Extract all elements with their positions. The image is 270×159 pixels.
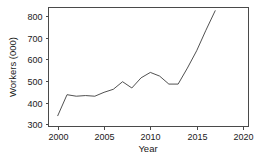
y-tick-label: 400 [27, 99, 42, 109]
line-chart-figure: 300400500600700800 20002005201020152020 … [0, 0, 270, 159]
y-tick-label: 500 [27, 77, 42, 87]
y-tick-label: 700 [27, 34, 42, 44]
y-tick-label: 600 [27, 55, 42, 65]
x-tick-label: 2005 [94, 132, 114, 142]
x-axis-title: Year [138, 143, 157, 154]
x-tick-label: 2020 [233, 132, 253, 142]
chart-canvas: 300400500600700800 20002005201020152020 … [0, 0, 270, 159]
x-tick-label: 2015 [187, 132, 207, 142]
y-tick-label: 800 [27, 12, 42, 22]
x-tick-label: 2010 [140, 132, 160, 142]
y-axis-title: Workers (000) [7, 37, 18, 97]
y-tick-label: 300 [27, 120, 42, 130]
x-tick-label: 2000 [48, 132, 68, 142]
